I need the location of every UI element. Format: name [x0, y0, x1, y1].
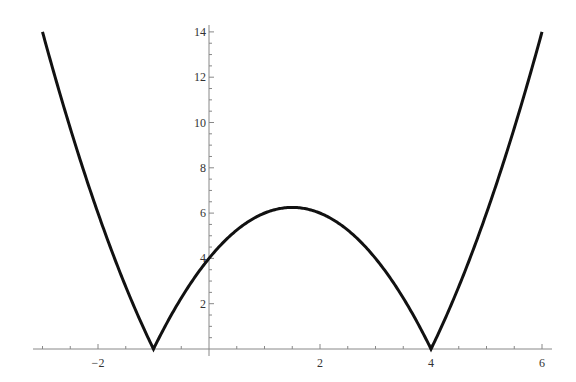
y-tick-label: 12	[194, 70, 206, 84]
y-tick-label: 10	[194, 116, 206, 130]
x-tick-label: 4	[428, 356, 434, 370]
function-curve	[43, 32, 543, 349]
x-tick-label: 2	[317, 356, 323, 370]
x-tick-label: −2	[92, 356, 105, 370]
y-tick-label: 14	[194, 25, 206, 39]
y-tick-label: 2	[200, 297, 206, 311]
x-tick-labels: −2246	[92, 356, 545, 370]
y-tick-label: 6	[200, 206, 206, 220]
x-ticks	[43, 344, 543, 349]
x-tick-label: 6	[539, 356, 545, 370]
chart-plot: −2246 2468101214	[0, 0, 576, 382]
y-ticks	[209, 32, 214, 338]
y-tick-label: 8	[200, 161, 206, 175]
x-axis: −2246	[33, 344, 552, 370]
y-axis: 2468101214	[194, 25, 214, 356]
